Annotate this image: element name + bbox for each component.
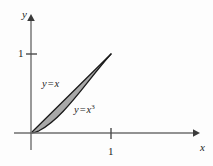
y-axis-label: y bbox=[22, 9, 27, 20]
y-axis-tick-label-1: 1 bbox=[18, 48, 24, 59]
curve-label-linear: y=x bbox=[42, 79, 59, 90]
curve-label-cubic-equals: = bbox=[79, 104, 87, 115]
curve-label-linear-equals: = bbox=[47, 78, 55, 89]
x-axis-tick-label-1: 1 bbox=[108, 146, 114, 157]
curve-label-cubic: y=x3 bbox=[74, 105, 95, 116]
curve-label-linear-lhs: y bbox=[42, 78, 47, 89]
area-between-curves-figure: y x 1 1 y=x y=x3 bbox=[0, 0, 213, 166]
y-axis-arrowhead bbox=[27, 14, 35, 21]
curve-label-cubic-lhs: y bbox=[74, 104, 79, 115]
x-axis-label: x bbox=[200, 142, 205, 153]
x-axis-arrowhead bbox=[193, 129, 200, 137]
curve-label-linear-rhs: x bbox=[55, 78, 60, 89]
curve-linear bbox=[31, 54, 111, 133]
plot-canvas bbox=[0, 0, 213, 166]
curve-label-cubic-exponent: 3 bbox=[91, 103, 95, 111]
